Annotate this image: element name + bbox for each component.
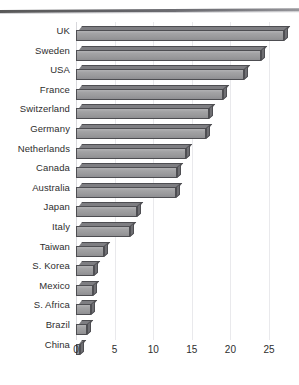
bar-front-face xyxy=(76,167,177,178)
bar-front-face xyxy=(76,89,223,100)
bar-side-face xyxy=(177,164,181,179)
bar-front-face xyxy=(76,148,186,159)
bar-usa xyxy=(76,65,249,80)
bar-side-face xyxy=(206,124,210,139)
bar-front-face xyxy=(76,30,284,41)
x-tick-label-20: 20 xyxy=(215,344,245,355)
bar-side-face xyxy=(209,105,213,120)
bar-side-face xyxy=(261,46,265,61)
bar-switzerland xyxy=(76,104,214,119)
bar-side-face xyxy=(87,320,91,335)
bar-side-face xyxy=(94,262,98,277)
bar-front-face xyxy=(76,246,104,257)
bar-mexico xyxy=(76,281,98,296)
bar-row: Taiwan xyxy=(0,238,299,258)
category-label-netherlands: Netherlands xyxy=(0,142,70,156)
bar-australia xyxy=(76,183,181,198)
bar-row: UK xyxy=(0,22,299,42)
bar-front-face xyxy=(76,128,206,139)
bar-front-face xyxy=(76,304,91,315)
bar-front-face xyxy=(76,285,93,296)
bar-uk xyxy=(76,26,289,41)
bar-canada xyxy=(76,163,182,178)
x-axis: 0510152025 xyxy=(0,344,299,364)
category-label-s-africa: S. Africa xyxy=(0,298,70,312)
category-label-s-korea: S. Korea xyxy=(0,259,70,273)
bar-france xyxy=(76,85,228,100)
x-tick-label-5: 5 xyxy=(100,344,130,355)
bar-row: Brazil xyxy=(0,316,299,336)
bar-row: Sweden xyxy=(0,42,299,62)
bar-side-face xyxy=(93,281,97,296)
bar-front-face xyxy=(76,324,87,335)
category-label-brazil: Brazil xyxy=(0,318,70,332)
bar-chart-figure: UKSwedenUSAFranceSwitzerlandGermanyNethe… xyxy=(0,0,299,385)
x-tick-label-0: 0 xyxy=(61,344,91,355)
category-label-france: France xyxy=(0,83,70,97)
bar-s-korea xyxy=(76,261,99,276)
category-label-mexico: Mexico xyxy=(0,279,70,293)
bar-front-face xyxy=(76,69,244,80)
x-tick-label-25: 25 xyxy=(254,344,284,355)
bar-front-face xyxy=(76,206,137,217)
bar-row: Japan xyxy=(0,198,299,218)
bar-front-face xyxy=(76,50,261,61)
bar-row: Germany xyxy=(0,120,299,140)
bar-row: USA xyxy=(0,61,299,81)
category-label-australia: Australia xyxy=(0,181,70,195)
bar-brazil xyxy=(76,320,92,335)
bar-taiwan xyxy=(76,242,109,257)
bar-side-face xyxy=(244,66,248,81)
bar-side-face xyxy=(137,203,141,218)
bar-side-face xyxy=(186,144,190,159)
bar-netherlands xyxy=(76,144,191,159)
bar-row: Switzerland xyxy=(0,100,299,120)
category-label-usa: USA xyxy=(0,63,70,77)
bar-side-face xyxy=(284,26,288,41)
x-tick-label-15: 15 xyxy=(177,344,207,355)
bar-row: Australia xyxy=(0,179,299,199)
category-label-germany: Germany xyxy=(0,122,70,136)
category-label-sweden: Sweden xyxy=(0,44,70,58)
category-label-japan: Japan xyxy=(0,200,70,214)
bar-side-face xyxy=(104,242,108,257)
bar-italy xyxy=(76,222,135,237)
category-label-canada: Canada xyxy=(0,161,70,175)
bar-front-face xyxy=(76,187,176,198)
bar-germany xyxy=(76,124,211,139)
bar-row: S. Africa xyxy=(0,296,299,316)
category-label-italy: Italy xyxy=(0,220,70,234)
bar-rows: UKSwedenUSAFranceSwitzerlandGermanyNethe… xyxy=(0,22,299,322)
bar-row: Canada xyxy=(0,159,299,179)
category-label-uk: UK xyxy=(0,24,70,38)
bar-front-face xyxy=(76,265,94,276)
bar-row: Netherlands xyxy=(0,140,299,160)
bar-front-face xyxy=(76,226,130,237)
category-label-switzerland: Switzerland xyxy=(0,102,70,116)
category-label-taiwan: Taiwan xyxy=(0,240,70,254)
bar-row: Mexico xyxy=(0,277,299,297)
bar-japan xyxy=(76,202,142,217)
bar-row: Italy xyxy=(0,218,299,238)
bar-front-face xyxy=(76,108,209,119)
bar-side-face xyxy=(91,301,95,316)
bar-row: France xyxy=(0,81,299,101)
bar-side-face xyxy=(223,85,227,100)
bar-side-face xyxy=(130,222,134,237)
bar-row: S. Korea xyxy=(0,257,299,277)
x-tick-label-10: 10 xyxy=(138,344,168,355)
bar-side-face xyxy=(176,183,180,198)
bar-s-africa xyxy=(76,300,96,315)
bar-sweden xyxy=(76,46,266,61)
